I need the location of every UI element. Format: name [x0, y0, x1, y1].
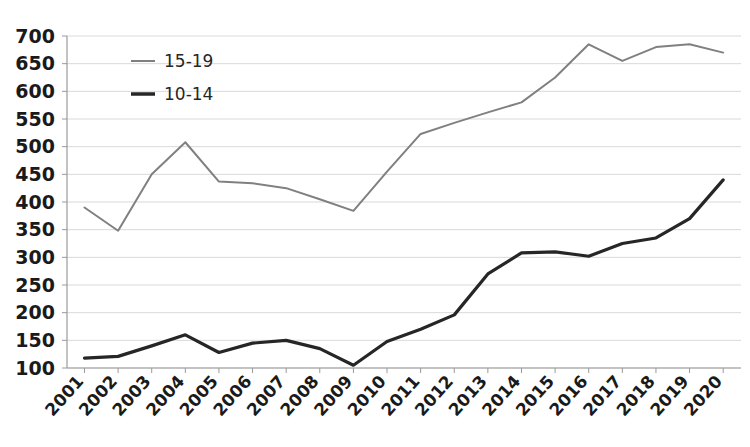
- y-axis-label-550: 550: [15, 108, 55, 130]
- y-tick-marks: [62, 36, 67, 368]
- series-line-15-19: [84, 44, 723, 230]
- y-axis-label-350: 350: [15, 218, 55, 240]
- legend-label-15-19: 15-19: [164, 51, 213, 71]
- y-axis-label-500: 500: [15, 135, 55, 157]
- x-axis-tick-labels: 2001200220032004200520062007200820092010…: [41, 371, 726, 420]
- y-axis-label-450: 450: [15, 163, 55, 185]
- y-axis-label-300: 300: [15, 246, 55, 268]
- y-axis-label-700: 700: [15, 25, 55, 47]
- y-axis-label-200: 200: [15, 301, 55, 323]
- y-axis-label-250: 250: [15, 274, 55, 296]
- y-axis-label-650: 650: [15, 52, 55, 74]
- y-axis-label-150: 150: [15, 329, 55, 351]
- x-axis-label-2020: 2020: [680, 371, 727, 420]
- y-axis-label-600: 600: [15, 80, 55, 102]
- y-axis-tick-labels: 100150200250300350400450500550600650700: [15, 25, 55, 379]
- chart-legend: 15-1910-14: [131, 51, 213, 104]
- y-axis-label-400: 400: [15, 191, 55, 213]
- y-axis-label-100: 100: [15, 357, 55, 379]
- series-line-10-14: [84, 180, 723, 365]
- x-tick-marks: [84, 368, 723, 373]
- chart-canvas: 100150200250300350400450500550600650700 …: [0, 0, 750, 447]
- legend-label-10-14: 10-14: [164, 84, 213, 104]
- line-chart: 100150200250300350400450500550600650700 …: [0, 0, 750, 447]
